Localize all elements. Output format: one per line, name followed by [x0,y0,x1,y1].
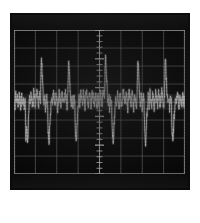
panel-top-bezel [12,15,188,29]
oscilloscope-screenshot [0,0,200,223]
center-axis-ticks [14,30,185,174]
panel-bottom-bezel [12,175,188,188]
oscilloscope-panel [10,13,190,190]
crt-screen [14,30,185,174]
